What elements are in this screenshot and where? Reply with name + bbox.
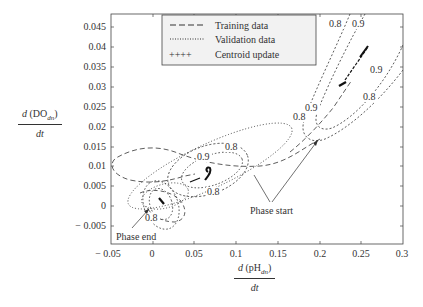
legend-centroid-label: Centroid update xyxy=(215,49,280,60)
x-label-sub: dn xyxy=(261,268,268,276)
centroid-updates xyxy=(159,46,368,204)
contour-label-09: 0.9 xyxy=(352,18,365,29)
x-label-close: ) xyxy=(268,262,271,273)
x-tick-label: 0.2 xyxy=(314,248,327,259)
legend-training-label: Training data xyxy=(215,20,269,31)
centroid-middle xyxy=(205,167,211,180)
x-tick-label: 0 xyxy=(150,248,155,259)
y-tick-label: 0.015 xyxy=(84,141,107,152)
x-label-var: (pH xyxy=(246,262,262,273)
contour-label-08: 0.8 xyxy=(207,186,220,197)
phase-start-label: Phase start xyxy=(250,205,293,216)
centroid-phase-end xyxy=(159,198,164,204)
chart: 0.045 0.04 0.035 0.03 0.025 0.02 0.015 0… xyxy=(0,0,423,307)
y-tick-label: 0 xyxy=(101,200,106,211)
centroid-middle-trail xyxy=(190,178,200,182)
y-tick-label: 0.02 xyxy=(89,121,107,132)
contour-08-phase-start-outer xyxy=(303,14,403,141)
phase-start-line-1 xyxy=(254,175,270,202)
contour-label-08: 0.8 xyxy=(293,111,306,122)
centroid-phase-start-end xyxy=(360,46,368,57)
y-tick-label: 0.025 xyxy=(84,101,107,112)
contour-label-09: 0.9 xyxy=(197,151,210,162)
contour-label-09: 0.9 xyxy=(305,102,318,113)
y-label-close: ) xyxy=(54,108,57,119)
y-label-var: (DO xyxy=(30,108,48,119)
x-tick-label: 0.3 xyxy=(396,248,409,259)
y-axis-label: d (DOdn) dt xyxy=(18,108,62,139)
y-tick-label: 0.01 xyxy=(89,160,107,171)
legend: Training data Validation data ++++ Centr… xyxy=(162,15,316,65)
y-tick-label: 0.03 xyxy=(89,81,107,92)
y-tick-label: 0.045 xyxy=(84,21,107,32)
contour-label-08: 0.8 xyxy=(329,18,342,29)
centroid-phase-start xyxy=(339,82,346,86)
y-tick-label: 0.035 xyxy=(84,61,107,72)
y-tick-labels: 0.045 0.04 0.035 0.03 0.025 0.02 0.015 0… xyxy=(75,21,106,231)
y-label-den: dt xyxy=(18,125,62,139)
x-label-den: dt xyxy=(234,279,275,293)
x-tick-label: − 0.05 xyxy=(95,248,121,259)
contour-label-08: 0.8 xyxy=(225,141,238,152)
x-tick-labels: − 0.05 0 0.05 0.1 0.15 0.2 0.25 0.3 xyxy=(95,248,408,259)
contour-label-08: 0.8 xyxy=(363,91,376,102)
phase-end-label: Phase end xyxy=(116,231,156,242)
legend-validation-label: Validation data xyxy=(215,34,276,45)
x-tick-label: 0.25 xyxy=(352,248,370,259)
contour-09-phase-start-outer xyxy=(316,14,403,129)
y-label-d: d xyxy=(22,108,27,119)
y-tick-label: 0.005 xyxy=(84,180,107,191)
y-tick-label: 0.04 xyxy=(89,41,107,52)
y-tick-label: − 0.005 xyxy=(75,220,106,231)
legend-centroid-swatch: ++++ xyxy=(169,49,192,60)
x-tick-label: 0.05 xyxy=(185,248,203,259)
x-tick-label: 0.1 xyxy=(230,248,243,259)
x-tick-label: 0.15 xyxy=(269,248,287,259)
training-data-curve xyxy=(112,139,320,182)
x-axis-label: d (pHdn) dt xyxy=(234,262,275,293)
x-label-d: d xyxy=(238,262,243,273)
phase-start-arrow xyxy=(272,140,318,202)
contour-label-09: 0.9 xyxy=(370,64,383,75)
